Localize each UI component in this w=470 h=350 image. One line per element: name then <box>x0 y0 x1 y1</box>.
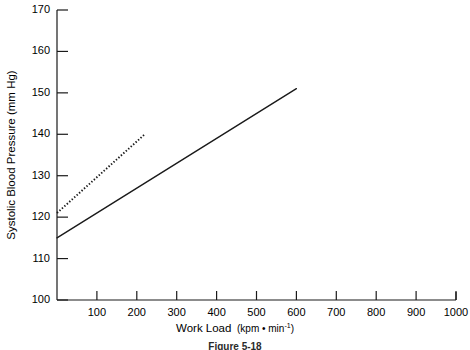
y-axis-tick-label: 100 <box>16 294 50 305</box>
x-axis-title-unit-close: ) <box>291 323 294 334</box>
y-axis-tick-label: 140 <box>16 128 50 139</box>
plot-area <box>0 0 470 350</box>
y-axis-tick-label: 130 <box>16 170 50 181</box>
y-axis-tick-label: 170 <box>16 4 50 15</box>
x-axis-tick-label: 600 <box>276 307 316 318</box>
data-series-group <box>57 89 296 238</box>
x-axis-tick-label: 200 <box>117 307 157 318</box>
x-axis-title-main: Work Load <box>176 322 231 334</box>
data-series-dotted-line <box>57 134 145 213</box>
x-axis-tick-label: 500 <box>237 307 277 318</box>
x-axis-tick-label: 700 <box>316 307 356 318</box>
x-axis-ticks <box>97 291 456 300</box>
x-axis-tick-label: 300 <box>157 307 197 318</box>
x-axis-tick-label: 100 <box>77 307 117 318</box>
y-axis-tick-label: 120 <box>16 211 50 222</box>
x-axis-tick-label: 400 <box>197 307 237 318</box>
x-axis-title-unit: (kpm • min <box>237 323 284 334</box>
y-axis-tick-label: 150 <box>16 87 50 98</box>
chart-figure: Systolic Blood Pressure (mm Hg) 10011012… <box>0 0 470 350</box>
y-axis-tick-label: 160 <box>16 45 50 56</box>
y-axis-ticks <box>57 10 68 300</box>
figure-caption: Figure 5-18 <box>0 341 470 350</box>
y-axis-tick-label: 110 <box>16 253 50 264</box>
data-series-solid-line <box>57 89 296 238</box>
x-axis-title: Work Load (kpm • min-1) <box>0 322 470 334</box>
x-axis-tick-label: 900 <box>396 307 436 318</box>
x-axis-tick-label: 1000 <box>436 307 470 318</box>
x-axis-tick-label: 800 <box>356 307 396 318</box>
